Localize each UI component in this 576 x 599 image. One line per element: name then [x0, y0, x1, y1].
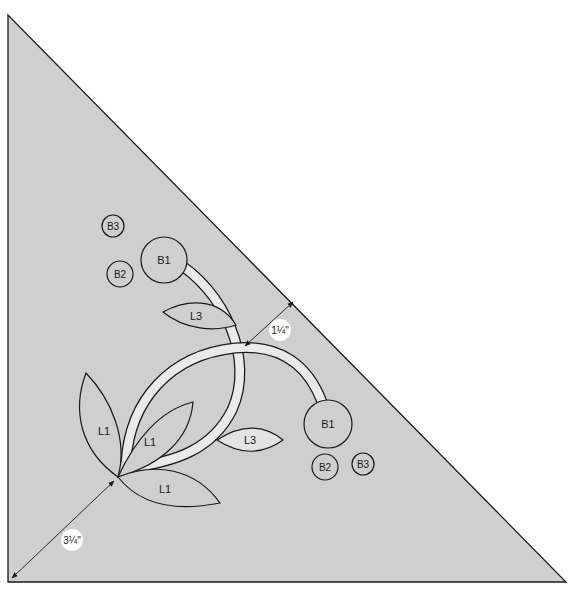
label-b3-lower: B3	[357, 459, 370, 470]
applique-diagram: L3 L1 L1 L1 L3 B1 B3 B2 B1 B2 B3 3¼"	[0, 0, 576, 599]
label-b1-upper: B1	[157, 254, 170, 266]
label-l3-lower: L3	[244, 434, 256, 446]
label-b1-lower: B1	[321, 418, 334, 430]
label-l1-bottom: L1	[159, 483, 171, 495]
label-l3-upper: L3	[190, 310, 202, 322]
label-b2-upper: B2	[114, 269, 127, 280]
measurement-label-corner: 3¼"	[63, 535, 81, 546]
label-l1-middle: L1	[144, 436, 156, 448]
label-l1-left: L1	[98, 425, 110, 437]
triangle-block	[8, 15, 566, 582]
measurement-label-edge: 1¼"	[271, 325, 289, 336]
label-b3-upper: B3	[107, 221, 120, 232]
label-b2-lower: B2	[319, 462, 332, 473]
